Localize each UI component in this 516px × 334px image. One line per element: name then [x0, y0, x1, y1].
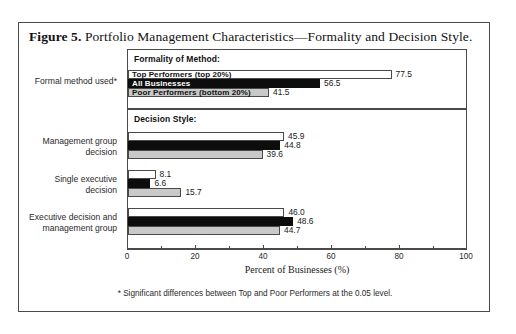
- x-axis-tick-label-40: 40: [258, 252, 267, 261]
- panel-decision-style: Decision Style: 45.9 44.8 39.6: [127, 109, 467, 249]
- figure-title-text: Portfolio Management Characteristics—For…: [81, 29, 472, 44]
- bar-value-poor-performers: 39.6: [267, 149, 283, 160]
- x-axis-tick-major: [466, 245, 467, 249]
- bar-poor-performers: [128, 226, 280, 235]
- x-axis-tick-minor: [161, 246, 162, 249]
- figure-frame: Figure 5. Portfolio Management Character…: [18, 22, 490, 312]
- bar-value-poor-performers: 44.7: [284, 225, 300, 236]
- panel-heading-formality: Formality of Method:: [134, 54, 220, 64]
- series-label-poor-performers: Poor Performers (bottom 20%): [132, 88, 251, 97]
- x-axis-title: Percent of Businesses (%): [127, 264, 467, 275]
- category-label-formal-method-used: Formal method used*: [0, 76, 117, 87]
- x-axis-tick-label-0: 0: [125, 252, 130, 261]
- x-axis-tick-label-60: 60: [326, 252, 335, 261]
- figure-number: Figure 5.: [29, 29, 81, 44]
- bar-top-performers: [128, 170, 156, 179]
- category-label-management-group-decision: Management group decision: [0, 136, 117, 158]
- x-axis-tick-major: [195, 245, 196, 249]
- x-axis-tick-minor: [229, 246, 230, 249]
- bar-value-all-businesses: 56.5: [324, 78, 340, 89]
- series-label-all-businesses: All Businesses: [132, 79, 190, 88]
- panel-formality-of-method: Formality of Method: Top Performers (top…: [127, 49, 467, 109]
- x-axis-tick-minor: [365, 246, 366, 249]
- figure-title: Figure 5. Portfolio Management Character…: [29, 29, 481, 45]
- x-axis-tick-label-100: 100: [459, 252, 473, 261]
- x-axis-tick-major: [331, 245, 332, 249]
- bar-poor-performers: [128, 188, 181, 197]
- bar-all-businesses: [128, 141, 280, 150]
- bar-value-top-performers: 77.5: [396, 69, 412, 80]
- x-axis: 0 20 40 60 80 100 Percent of Businesses …: [127, 249, 467, 289]
- bar-value-poor-performers: 41.5: [273, 87, 289, 98]
- bar-value-poor-performers: 15.7: [185, 187, 201, 198]
- panel-heading-decision-style: Decision Style:: [134, 114, 196, 124]
- x-axis-tick-major: [399, 245, 400, 249]
- x-axis-tick-minor: [433, 246, 434, 249]
- x-axis-tick-label-80: 80: [394, 252, 403, 261]
- category-label-single-executive-decision: Single executive decision: [0, 174, 117, 196]
- x-axis-tick-major: [127, 245, 128, 249]
- bar-all-businesses: [128, 217, 293, 226]
- category-label-executive-and-management-group: Executive decision and management group: [0, 212, 117, 234]
- x-axis-tick-minor: [297, 246, 298, 249]
- bar-poor-performers: [128, 150, 263, 159]
- x-axis-tick-label-20: 20: [190, 252, 199, 261]
- series-label-top-performers: Top Performers (top 20%): [132, 70, 232, 79]
- bar-top-performers: [128, 208, 284, 217]
- chart-plot-area: Formality of Method: Top Performers (top…: [19, 49, 491, 311]
- x-axis-line: [127, 249, 467, 250]
- bar-top-performers: [128, 132, 284, 141]
- bar-value-all-businesses: 44.8: [284, 140, 300, 151]
- figure-footnote: * Significant differences between Top an…: [19, 289, 491, 298]
- x-axis-tick-major: [263, 245, 264, 249]
- bar-all-businesses: [128, 179, 150, 188]
